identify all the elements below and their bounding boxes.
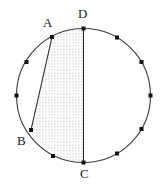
marked-point bbox=[50, 35, 54, 39]
marked-point bbox=[115, 152, 119, 156]
vertex-label-d: D bbox=[78, 7, 87, 20]
marked-point bbox=[115, 36, 119, 40]
marked-point bbox=[82, 27, 86, 31]
marked-point bbox=[25, 60, 29, 64]
geometry-figure: A B C D bbox=[0, 0, 163, 188]
marked-point bbox=[149, 94, 153, 98]
marked-point bbox=[51, 154, 55, 158]
marked-point bbox=[140, 60, 144, 64]
marked-point bbox=[29, 128, 33, 132]
vertex-label-a: A bbox=[43, 16, 52, 29]
vertex-label-c: C bbox=[80, 167, 89, 180]
marked-point bbox=[82, 161, 86, 165]
marked-point bbox=[15, 94, 19, 98]
marked-point bbox=[140, 127, 144, 131]
geometry-canvas bbox=[0, 0, 163, 188]
vertex-label-b: B bbox=[17, 134, 26, 147]
